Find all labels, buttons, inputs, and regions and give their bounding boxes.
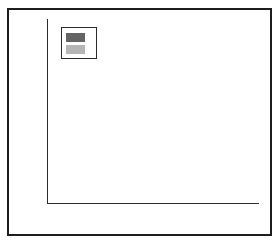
dark-gray-swatch-icon (66, 33, 85, 42)
chart-title (9, 0, 271, 2)
legend-item-farm (66, 31, 90, 43)
legend-item-nonfarm (66, 43, 90, 55)
chart-legend (61, 27, 97, 59)
chart-figure (0, 0, 279, 244)
chart-frame (7, 8, 272, 236)
light-gray-swatch-icon (66, 45, 85, 54)
